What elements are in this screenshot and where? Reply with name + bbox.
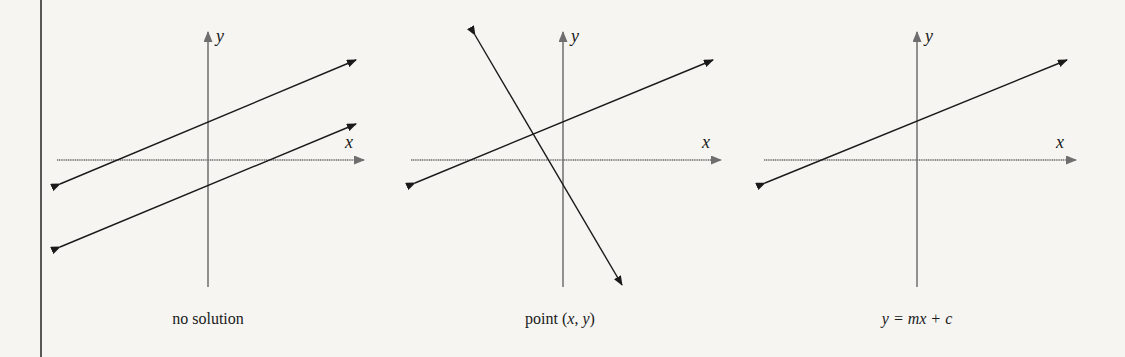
line-shallow [415,60,713,183]
y-axis-label: y [216,26,224,47]
panel-point [411,32,721,287]
line-steep [475,35,622,285]
caption-equation: y = mx + c [882,310,952,328]
x-axis-label: x [702,132,710,153]
caption-point: point (x, y) [525,310,595,328]
x-axis-label: x [1056,132,1064,153]
x-axis-label: x [345,132,353,153]
panel-infinite [764,32,1076,287]
y-axis-label: y [571,26,579,47]
line-single [765,60,1067,183]
panel-no-solution [57,32,364,287]
y-axis-label: y [925,26,933,47]
caption-no-solution: no solution [172,310,244,328]
diagram-canvas [0,0,1125,357]
